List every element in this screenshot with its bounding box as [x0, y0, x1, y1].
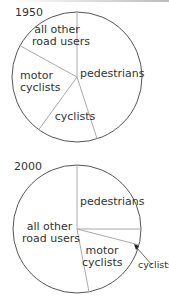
label-motor-1950: motor cyclists [20, 70, 61, 94]
label-other-1950: all other road users [32, 24, 82, 48]
label-pedestrians-2000: pedestrians [80, 196, 138, 208]
label-other-2000-line2: road users [22, 233, 77, 245]
pie-chart-2000: 2000 pedestrians all other road users mo… [0, 151, 169, 302]
label-motor-2000-line2: cyclists [82, 257, 122, 269]
label-cyclists-1950: cyclists [50, 111, 100, 123]
label-pedestrians-1950: pedestrians [80, 68, 140, 80]
chart-title-2000: 2000 [14, 160, 42, 173]
label-motor-2000: motor cyclists [82, 245, 122, 269]
label-motor-1950-line2: cyclists [20, 82, 61, 94]
label-other-2000: all other road users [22, 221, 77, 245]
label-other-1950-line2: road users [32, 36, 82, 48]
label-cyclists-2000: cyclists [138, 259, 169, 271]
chart-title-1950: 1950 [15, 6, 43, 19]
pie-chart-1950: 1950 all other road users pedestrians mo… [0, 0, 169, 151]
